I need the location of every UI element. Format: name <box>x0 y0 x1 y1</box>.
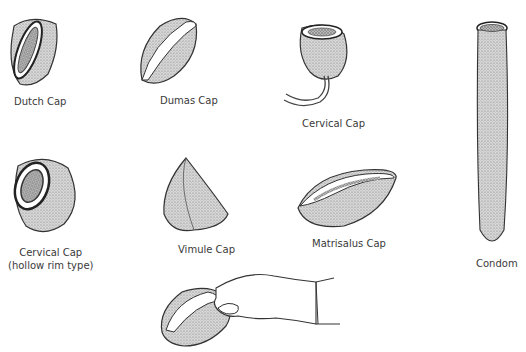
dumas-cap-label: Dumas Cap <box>160 94 218 107</box>
cervical-cap-illustration <box>282 20 358 112</box>
matrisalus-cap-label: Matrisalus Cap <box>312 237 386 250</box>
cervical-cap-hollow-rim-label: Cervical Cap (hollow rim type) <box>8 246 93 272</box>
dumas-cap-illustration <box>134 10 204 88</box>
condom-illustration <box>472 20 512 248</box>
cervical-cap-hollow-rim-title: Cervical Cap <box>8 246 93 259</box>
vimule-cap-illustration <box>156 156 232 236</box>
cervical-cap-hollow-rim-illustration <box>4 146 84 238</box>
matrisalus-cap-illustration <box>294 164 400 230</box>
hand-holding-cap-illustration <box>156 270 350 350</box>
dutch-cap-label: Dutch Cap <box>14 95 66 108</box>
cervical-cap-label: Cervical Cap <box>302 117 365 130</box>
condom-label: Condom <box>476 257 518 270</box>
vimule-cap-label: Vimule Cap <box>178 243 235 256</box>
cervical-cap-hollow-rim-subtitle: (hollow rim type) <box>8 259 93 272</box>
dutch-cap-illustration <box>4 8 64 90</box>
